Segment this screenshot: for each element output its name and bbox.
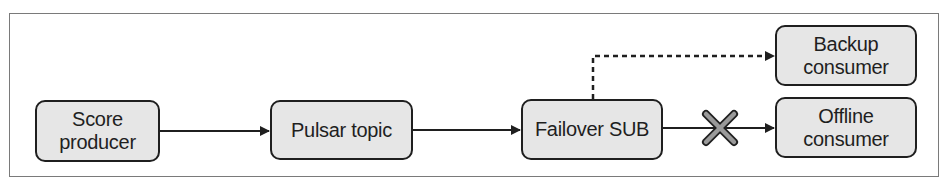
edge-failover-to-backup-dashed — [593, 56, 774, 99]
node-label-line: Backup — [803, 33, 888, 56]
node-label-line: Score — [59, 108, 136, 131]
node-score-producer: Score producer — [35, 100, 160, 162]
node-label-line: producer — [59, 131, 136, 154]
node-pulsar-topic: Pulsar topic — [270, 100, 413, 160]
node-backup-consumer: Backup consumer — [775, 25, 917, 86]
node-label-line: consumer — [803, 56, 888, 79]
node-label-line: Offline — [803, 105, 888, 128]
node-failover-sub: Failover SUB — [521, 99, 663, 160]
node-offline-consumer: Offline consumer — [775, 97, 917, 158]
node-label-line: consumer — [803, 128, 888, 151]
node-label-line: Failover SUB — [535, 118, 649, 141]
node-label-line: Pulsar topic — [291, 119, 392, 142]
